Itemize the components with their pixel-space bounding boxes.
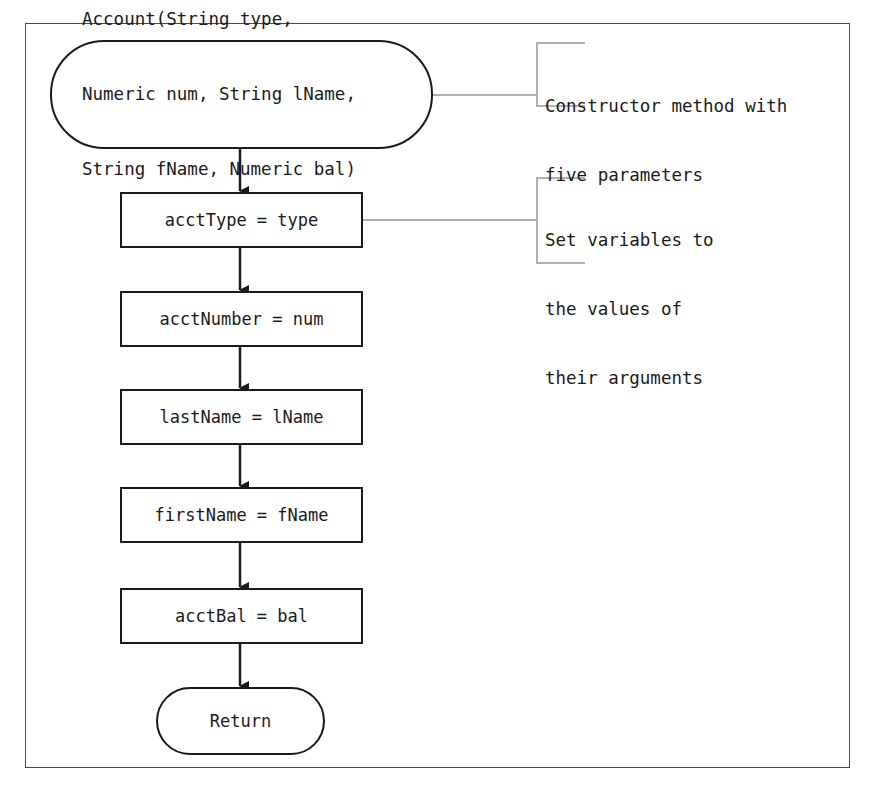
process-step-acct-number: acctNumber = num (120, 291, 363, 347)
process-step-last-name: lastName = lName (120, 389, 363, 445)
step-label: acctType = type (165, 210, 319, 230)
annotation-line: the values of (545, 298, 714, 321)
annotation-line: Constructor method with (545, 95, 787, 118)
start-line-1: Account(String type, (82, 7, 356, 32)
process-step-first-name: firstName = fName (120, 487, 363, 543)
step-label: acctNumber = num (160, 309, 324, 329)
process-step-acct-bal: acctBal = bal (120, 588, 363, 644)
annotation-set-variables: Set variables to the values of their arg… (545, 183, 714, 413)
step-label: acctBal = bal (175, 606, 308, 626)
process-step-acct-type: acctType = type (120, 192, 363, 248)
return-terminator: Return (156, 687, 325, 755)
annotation-line: their arguments (545, 367, 714, 390)
step-label: firstName = fName (155, 505, 329, 525)
step-label: lastName = lName (160, 407, 324, 427)
start-terminator: Account(String type, Numeric num, String… (50, 40, 433, 149)
start-line-2: Numeric num, String lName, (82, 82, 356, 107)
start-line-3: String fName, Numeric bal) (82, 157, 356, 182)
annotation-line: Set variables to (545, 229, 714, 252)
return-label: Return (210, 711, 271, 731)
